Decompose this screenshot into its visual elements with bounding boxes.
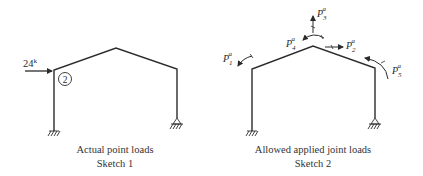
fixed-support-icon [246, 131, 258, 136]
moment-arrow-p1 [238, 56, 252, 66]
moment-arrow-p4 [303, 35, 324, 40]
caption-sketch-1-title: Actual point loads [77, 144, 154, 155]
load-label-p2: P2a [345, 37, 356, 54]
diagram-canvas: 24k 2 Actual point loads Sketch 1 P1a [0, 0, 423, 176]
load-label: 24k [23, 57, 38, 69]
fixed-support-icon [48, 131, 60, 136]
caption-sketch-1-label: Sketch 1 [97, 158, 133, 169]
joint-number: 2 [63, 75, 68, 85]
load-label-p4: P4a [285, 35, 296, 52]
caption-sketch-2-title: Allowed applied joint loads [255, 144, 371, 155]
load-label-p3: P3a [316, 5, 327, 22]
caption-sketch-2-label: Sketch 2 [295, 158, 331, 169]
load-label-p1: P1a [222, 50, 233, 67]
load-label-p5: P5a [391, 62, 402, 79]
sketch-2: P1a P3a P4a P2a P5a Allowed applied join… [222, 5, 402, 169]
frame-sketch-2 [252, 46, 375, 131]
pin-support-icon [170, 118, 183, 129]
pin-support-icon [368, 118, 381, 129]
frame-sketch-1 [54, 48, 177, 131]
sketch-1: 24k 2 Actual point loads Sketch 1 [23, 48, 183, 169]
